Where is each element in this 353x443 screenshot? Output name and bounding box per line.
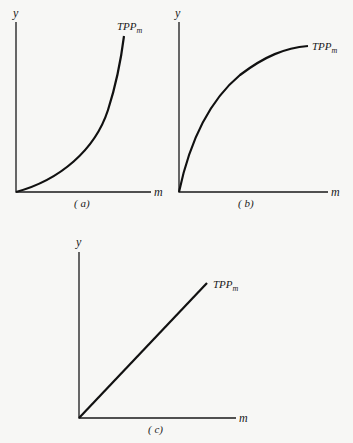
curve-label-c: TPPm: [213, 278, 239, 293]
caption-b: ( b): [238, 197, 254, 210]
panel-b: y m TPPm ( b): [174, 6, 340, 210]
caption-a: ( a): [74, 197, 90, 210]
axes-b: [179, 22, 328, 192]
x-axis-label: m: [331, 185, 340, 199]
curve-label-b: TPPm: [312, 40, 338, 55]
caption-c: ( c): [148, 423, 163, 436]
x-axis-label: m: [154, 185, 163, 199]
y-axis-label: y: [174, 6, 181, 20]
panel-c: y m TPPm ( c): [75, 235, 248, 436]
y-axis-label: y: [75, 235, 82, 249]
panel-a: y m TPPm ( a): [12, 6, 163, 210]
tpp-curve-b: [179, 46, 308, 192]
tpp-line-c: [79, 283, 207, 418]
tpp-diagram: y m TPPm ( a) y m TPPm ( b) y m TPPm ( c…: [0, 0, 353, 443]
curve-label-a: TPPm: [117, 20, 143, 35]
x-axis-label: m: [239, 411, 248, 425]
tpp-curve-a: [16, 36, 124, 192]
axes-a: [16, 22, 151, 192]
y-axis-label: y: [12, 6, 19, 20]
